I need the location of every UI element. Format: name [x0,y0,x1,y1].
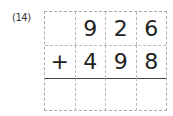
answer-cell[interactable] [45,78,76,111]
digit-cell: 8 [137,45,167,78]
addend-row-2: + 4 9 8 [45,45,166,78]
answer-cell[interactable] [106,78,137,111]
cell [45,12,76,45]
addend-row-1: 9 2 6 [45,12,166,46]
digit-cell: 2 [106,12,137,45]
digit-cell: 6 [137,12,167,45]
answer-cell[interactable] [137,78,167,111]
plus-sign: + [45,45,76,78]
addition-grid: 9 2 6 + 4 9 8 [44,11,167,111]
digit-cell: 9 [106,45,137,78]
answer-cell[interactable] [76,78,107,111]
digit-cell: 9 [76,12,107,45]
problem-number: (14) [12,12,31,23]
answer-row[interactable] [45,78,166,111]
digit-cell: 4 [76,45,107,78]
